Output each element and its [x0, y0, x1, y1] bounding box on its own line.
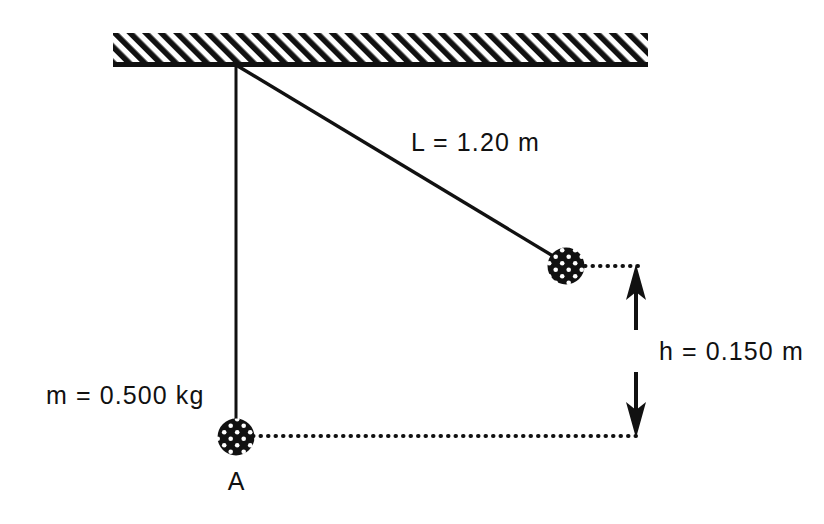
pendulum-diagram-figure: L = 1.20 m m = 0.500 kg h = 0.150 m A	[0, 0, 824, 524]
pendulum-bob-raised	[548, 248, 585, 285]
bob-rest-body	[218, 419, 255, 456]
label-mass: m = 0.500 kg	[46, 381, 204, 409]
label-point-a: A	[228, 467, 245, 495]
string-diagonal-raised-position	[236, 65, 558, 259]
pendulum-strings	[236, 65, 558, 437]
reference-lines	[253, 266, 639, 436]
diagram-canvas: L = 1.20 m m = 0.500 kg h = 0.150 m A	[0, 0, 824, 524]
height-measure-arrows	[626, 264, 646, 438]
pendulum-bob-at-rest	[218, 419, 255, 456]
label-height: h = 0.150 m	[659, 337, 804, 365]
label-string-length: L = 1.20 m	[411, 128, 540, 156]
ceiling-support	[113, 33, 648, 65]
ceiling-hatched-band	[113, 33, 648, 63]
bob-raised-body	[548, 248, 585, 285]
